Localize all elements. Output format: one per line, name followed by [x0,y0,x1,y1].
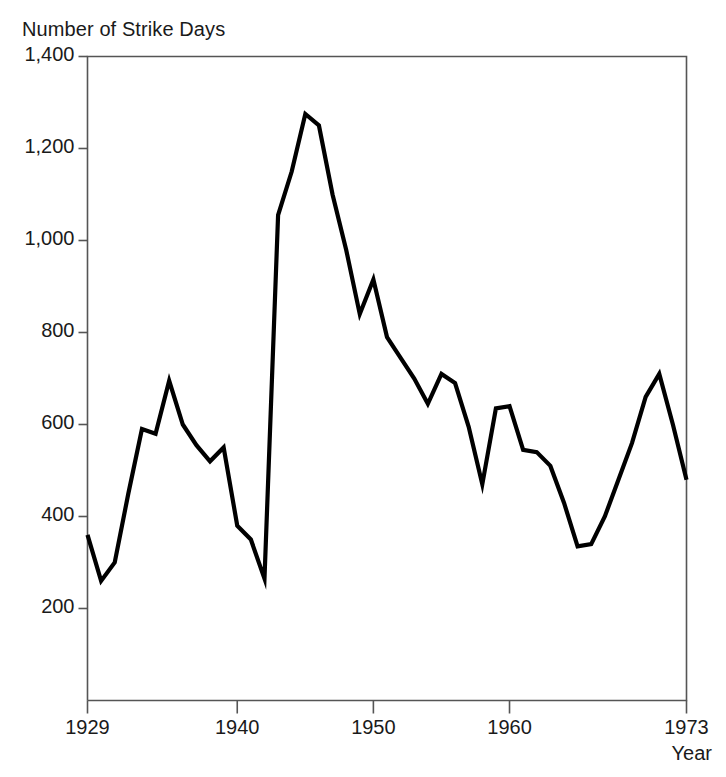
chart-figure: Number of Strike Days 1,4001,2001,000800… [0,0,726,777]
y-axis-tick-label: 800 [0,319,75,342]
y-axis-tick-label: 1,400 [0,43,75,66]
x-axis-ticks [88,701,687,714]
x-axis-tick-label: 1973 [642,716,726,739]
x-axis-title: Year [672,742,712,765]
x-axis-tick-label: 1950 [328,716,418,739]
x-axis-tick-label: 1940 [192,716,282,739]
data-series-line [88,114,687,581]
chart-title: Number of Strike Days [22,18,225,41]
line-chart-plot [0,0,726,777]
y-axis-tick-label: 1,200 [0,135,75,158]
x-axis-tick-label: 1960 [465,716,555,739]
y-axis-tick-label: 600 [0,411,75,434]
axis-frame [88,57,687,701]
x-axis-tick-label: 1929 [43,716,133,739]
y-axis-tick-label: 400 [0,503,75,526]
y-axis-tick-label: 200 [0,595,75,618]
y-axis-tick-label: 1,000 [0,227,75,250]
y-axis-ticks [79,57,88,609]
